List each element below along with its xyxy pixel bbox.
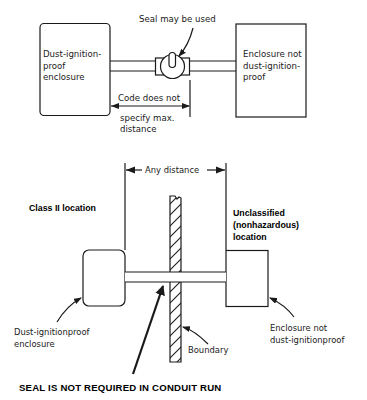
top-left-enclosure-label: Dust-ignition- proof enclosure	[43, 49, 101, 82]
class-ii-location-label: Class II location	[29, 203, 96, 213]
right-enclosure-pointer	[270, 298, 294, 317]
label-line: Enclosure not	[270, 323, 328, 333]
label-line: distance	[120, 124, 156, 134]
label-line: specify max.	[120, 113, 174, 123]
top-right-enclosure-label: Enclosure not dust-ignition- proof	[243, 49, 302, 82]
diagram-canvas: Dust-ignition- proof enclosure Enclosure…	[0, 0, 367, 400]
caption: SEAL IS NOT REQUIRED IN CONDUIT RUN	[19, 382, 221, 393]
left-enclosure-pointer	[57, 298, 81, 322]
seal-pointer-arrow	[179, 28, 193, 56]
seal-fitting	[156, 53, 190, 79]
label-line: Unclassified	[233, 208, 285, 218]
label-line: location	[233, 232, 267, 242]
boundary-pointer	[183, 327, 208, 344]
label-line: proof	[43, 61, 66, 71]
left-enclosure-label: Dust-ignitionproof enclosure	[14, 327, 91, 349]
right-enclosure-label: Enclosure not dust-ignitionproof	[270, 323, 345, 345]
bottom-right-enclosure	[226, 251, 268, 307]
seal-not-required-pointer	[133, 286, 163, 374]
top-right-enclosure	[236, 24, 306, 117]
seal-label: Seal may be used	[139, 14, 216, 24]
label-line: Dust-ignition-	[43, 49, 101, 59]
label-line: proof	[243, 72, 266, 82]
any-distance-label-group: Any distance	[143, 162, 206, 176]
label-line: Enclosure not	[243, 49, 302, 59]
label-line: (nonhazardous)	[233, 220, 299, 230]
label-line: enclosure	[43, 72, 85, 82]
unclassified-location-label: Unclassified (nonhazardous) location	[233, 208, 299, 242]
label-line: dust-ignition-	[243, 61, 300, 71]
bottom-left-enclosure	[83, 250, 125, 306]
any-distance-label: Any distance	[145, 165, 199, 175]
bottom-conduit	[125, 272, 226, 282]
label-line: Dust-ignitionproof	[14, 327, 91, 337]
label-line: Code does not	[118, 93, 181, 103]
distance-label: Code does not specify max. distance	[118, 93, 181, 134]
label-line: enclosure	[14, 339, 55, 349]
boundary-label: Boundary	[188, 345, 228, 355]
bottom-diagram	[57, 163, 294, 374]
label-line: dust-ignitionproof	[270, 335, 345, 345]
